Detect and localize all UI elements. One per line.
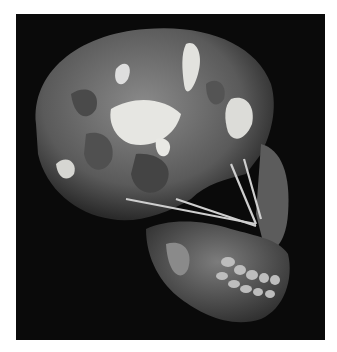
skull-photograph [16, 14, 325, 340]
skull-illustration [16, 14, 325, 340]
